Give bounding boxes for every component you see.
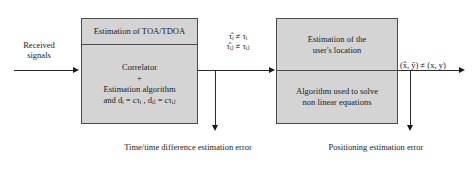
output-branch-arrowhead (407, 125, 413, 131)
tau-error-line2: τ̂ᵢⱼ ≠ τᵢⱼ (203, 41, 273, 51)
toa-tdoa-estimation-box: Estimation of TOA/TDOA Correlator + Esti… (81, 18, 198, 124)
plus-symbol: + (137, 74, 142, 83)
user-location-box-body: Algorithm used to solve non linear equat… (277, 71, 397, 123)
distance-formula: and dᵢ = cτᵢ , dᵢⱼ = cτᵢⱼ (104, 95, 176, 106)
mid-connector-arrowhead (269, 67, 275, 73)
output-coordinates-label: (x̂, ŷ) ≠ (x, y) (400, 60, 474, 70)
user-location-box-header: Estimation of the user's location (277, 19, 397, 71)
algorithm-label-line1: Algorithm used to solve (296, 86, 378, 97)
input-connector-line (14, 70, 74, 71)
caption-time-estimation-error: Time/time difference estimation error (92, 142, 284, 152)
algorithm-label-line2: non linear equations (303, 97, 372, 108)
mid-branch-line (215, 70, 216, 126)
user-location-header-line1: Estimation of the (308, 34, 367, 44)
mid-connector-line (198, 70, 270, 71)
input-connector-arrowhead (73, 67, 79, 73)
user-location-estimation-box: Estimation of the user's location Algori… (276, 18, 398, 124)
input-label-line2: signals (6, 50, 72, 60)
estimation-algorithm-label: Estimation algorithm (103, 84, 175, 95)
tau-error-label: τ̂ᵢ ≠ τᵢ τ̂ᵢⱼ ≠ τᵢⱼ (203, 31, 273, 52)
user-location-header-line2: user's location (308, 45, 367, 55)
correlator-label: Correlator (122, 62, 157, 73)
diagram-canvas: Received signals Estimation of TOA/TDOA … (0, 0, 475, 171)
input-label: Received signals (6, 40, 72, 61)
input-label-line1: Received (6, 40, 72, 50)
caption-positioning-estimation-error: Positioning estimation error (294, 142, 458, 152)
mid-branch-arrowhead (212, 125, 218, 131)
output-branch-line (410, 70, 411, 126)
toa-tdoa-box-body: Correlator + Estimation algorithm and dᵢ… (82, 45, 197, 123)
toa-tdoa-box-header: Estimation of TOA/TDOA (82, 19, 197, 45)
tau-error-line1: τ̂ᵢ ≠ τᵢ (203, 31, 273, 41)
